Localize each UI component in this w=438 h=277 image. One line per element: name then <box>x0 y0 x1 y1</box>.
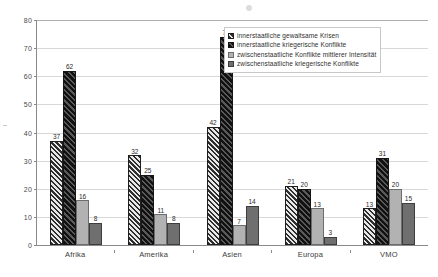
legend-swatch-icon <box>228 61 234 67</box>
bar-slot: 42 <box>207 20 220 245</box>
bar-value-label: 15 <box>405 196 412 203</box>
bar[interactable]: 62 <box>63 71 76 245</box>
legend-item: innerstaatliche gewaltsame Krisen <box>228 31 376 41</box>
bar[interactable]: 3 <box>324 237 337 245</box>
x-axis-label: VMO <box>350 250 428 259</box>
bar-slot: 16 <box>76 20 89 245</box>
bar[interactable]: 42 <box>207 127 220 245</box>
bar[interactable]: 11 <box>154 214 167 245</box>
bar-group: 3225118 <box>115 20 193 245</box>
bar[interactable]: 21 <box>285 186 298 245</box>
y-axis-tick <box>34 245 37 246</box>
bar[interactable]: 13 <box>311 208 324 245</box>
bar-value-label: 11 <box>157 208 164 215</box>
bar[interactable]: 13 <box>363 208 376 245</box>
bar-slot: 25 <box>141 20 154 245</box>
y-axis-tick-label: 50 <box>24 101 32 108</box>
y-axis-tick-label: 60 <box>24 73 32 80</box>
bar[interactable]: 25 <box>141 175 154 245</box>
bar-slot: 8 <box>89 20 102 245</box>
bar-slot: 20 <box>389 20 402 245</box>
y-axis-tick-label: 10 <box>24 213 32 220</box>
bar[interactable]: 8 <box>167 223 180 246</box>
bar-slot: 32 <box>128 20 141 245</box>
legend-item: zwischenstaatliche kriegerische Konflikt… <box>228 60 376 70</box>
bar-value-label: 8 <box>172 216 176 223</box>
x-axis-labels: AfrikaAmerikaAsienEuropaVMO <box>36 250 428 259</box>
bar-value-label: 20 <box>301 182 308 189</box>
legend-swatch-icon <box>228 52 234 58</box>
legend-item: innerstaatliche kriegerische Konflikte <box>228 41 376 51</box>
bar-value-label: 31 <box>379 151 386 158</box>
x-axis-tick <box>114 250 115 253</box>
bar-value-label: 21 <box>288 179 295 186</box>
legend-item-label: innerstaatliche kriegerische Konflikte <box>237 42 346 49</box>
legend-swatch-icon <box>228 33 234 39</box>
bar-value-label: 13 <box>366 202 373 209</box>
y-axis-tick-label: 0 <box>28 242 32 249</box>
bar-slot: 37 <box>50 20 63 245</box>
bar[interactable]: 32 <box>128 155 141 245</box>
bar[interactable]: 16 <box>76 200 89 245</box>
bar-value-label: 13 <box>314 202 321 209</box>
legend-swatch-icon <box>228 42 234 48</box>
bar[interactable]: 15 <box>402 203 415 245</box>
bar-slot: 8 <box>167 20 180 245</box>
chart-legend: innerstaatliche gewaltsame Krisen inners… <box>224 27 381 73</box>
y-axis-tick-label: 30 <box>24 157 32 164</box>
legend-item: zwischenstaatliche Konflikte mittlerer I… <box>228 50 376 60</box>
bar-value-label: 20 <box>392 182 399 189</box>
bar-value-label: 3 <box>328 230 332 237</box>
bar[interactable]: 14 <box>246 206 259 245</box>
x-axis-tick <box>193 250 194 253</box>
bar-value-label: 62 <box>66 64 73 71</box>
x-axis-tick <box>350 250 351 253</box>
x-axis-label: Europa <box>271 250 349 259</box>
legend-item-label: zwischenstaatliche Konflikte mittlerer I… <box>237 52 376 59</box>
y-axis-tick-label: 80 <box>24 17 32 24</box>
bar-slot: 62 <box>63 20 76 245</box>
x-axis-tick <box>271 250 272 253</box>
bar[interactable]: 8 <box>89 223 102 246</box>
x-axis-label: Afrika <box>36 250 114 259</box>
bar[interactable]: 37 <box>50 141 63 245</box>
bar-value-label: 14 <box>248 199 255 206</box>
bar-slot: 15 <box>402 20 415 245</box>
bar[interactable]: 20 <box>298 189 311 245</box>
x-axis-label: Amerika <box>114 250 192 259</box>
bar-group: 3762168 <box>37 20 115 245</box>
bar-chart: 01020304050607080 3762168322511842747142… <box>0 0 438 277</box>
bar-value-label: 37 <box>53 134 60 141</box>
bar-value-label: 7 <box>237 219 241 226</box>
y-axis-tick-label: 40 <box>24 129 32 136</box>
bar-value-label: 8 <box>94 216 98 223</box>
bar[interactable]: 20 <box>389 189 402 245</box>
bar-slot: 11 <box>154 20 167 245</box>
scan-artifact <box>3 125 7 126</box>
bar-value-label: 32 <box>131 149 138 156</box>
y-axis-tick-label: 70 <box>24 45 32 52</box>
bar[interactable]: 31 <box>376 158 389 245</box>
bar[interactable]: 7 <box>233 225 246 245</box>
x-axis-label: Asien <box>193 250 271 259</box>
legend-item-label: zwischenstaatliche kriegerische Konflikt… <box>237 61 359 68</box>
bar-value-label: 16 <box>79 194 86 201</box>
bar-value-label: 42 <box>209 120 216 127</box>
scan-artifact <box>246 5 252 11</box>
y-axis-tick-label: 20 <box>24 185 32 192</box>
bar-value-label: 25 <box>144 168 151 175</box>
legend-item-label: innerstaatliche gewaltsame Krisen <box>237 33 339 40</box>
